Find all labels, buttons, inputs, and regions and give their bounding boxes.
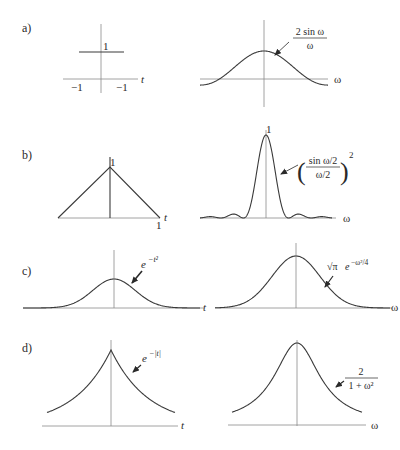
arrow-icon — [325, 276, 333, 287]
sinc-squared-plot: 1 ω ( sin ω/2 ω/2 ) 2 — [200, 123, 354, 224]
formula-base: e — [142, 352, 147, 364]
triangle-curve — [58, 167, 160, 218]
arrow-icon — [132, 271, 142, 283]
panel-c: c) t e −t² ω √π e −ω²/4 — [22, 243, 398, 313]
triangle-pulse-plot: 1 1 t — [58, 156, 168, 231]
omega-axis-label: ω — [371, 419, 378, 431]
formula-exponent: −t² — [148, 255, 159, 264]
gaussian-plot: t e −t² — [23, 250, 207, 313]
tick-left: −1 — [71, 81, 83, 93]
sinc-plot: ω 2 sin ω ω — [200, 20, 341, 107]
tick-right: −1 — [116, 81, 128, 93]
peak-label: 1 — [110, 156, 116, 168]
formula-exponent: −ω²/4 — [351, 258, 368, 267]
formula-base: e — [345, 261, 350, 272]
arrow-icon — [336, 381, 344, 387]
panel-a: a) 1 −1 −1 t ω 2 sin ω ω — [22, 20, 341, 107]
arrow-icon — [281, 165, 298, 174]
formula-denominator: ω/2 — [316, 169, 330, 180]
panel-label-a: a) — [22, 21, 31, 35]
omega-axis-label: ω — [343, 212, 350, 224]
peak-label: 1 — [266, 123, 272, 135]
panel-label-b: b) — [22, 148, 32, 162]
panel-d: d) t e −|t| ω 2 1 + ω² — [22, 340, 378, 431]
arrow-icon — [133, 365, 141, 372]
t-axis-label: t — [164, 211, 168, 223]
omega-axis-label: ω — [334, 73, 341, 85]
t-axis-label: t — [181, 419, 185, 431]
formula-base: e — [141, 258, 146, 270]
tick-right: 1 — [156, 219, 162, 231]
lorentzian-plot: ω 2 1 + ω² — [228, 340, 378, 431]
paren-left: ( — [297, 157, 306, 186]
panel-label-c: c) — [22, 264, 31, 278]
formula-denominator: ω — [307, 40, 314, 51]
height-label: 1 — [103, 40, 109, 52]
formula-exponent: −|t| — [149, 349, 161, 358]
omega-axis-label: ω — [391, 301, 398, 313]
formula-denominator: 1 + ω² — [348, 380, 373, 391]
panel-b: b) 1 1 t 1 ω ( sin ω/2 ω/2 ) 2 — [22, 123, 354, 231]
fourier-transform-pairs-figure: a) 1 −1 −1 t ω 2 sin ω ω b) 1 — [0, 0, 400, 450]
gaussian-curve — [23, 279, 200, 308]
double-exponential-plot: t e −|t| — [42, 340, 185, 431]
paren-right: ) — [340, 157, 349, 186]
t-axis-label: t — [141, 73, 145, 85]
formula-numerator: 2 — [359, 366, 364, 377]
gaussian-transform-plot: ω √π e −ω²/4 — [215, 243, 398, 313]
formula-numerator: 2 sin ω — [296, 26, 325, 37]
formula-numerator: sin ω/2 — [309, 155, 338, 166]
panel-label-d: d) — [22, 341, 32, 355]
formula-exponent: 2 — [349, 150, 354, 160]
formula-prefix: √π — [327, 261, 338, 272]
t-axis-label: t — [203, 301, 207, 313]
rect-pulse-plot: 1 −1 −1 t — [63, 24, 145, 93]
arrow-icon — [275, 42, 289, 55]
